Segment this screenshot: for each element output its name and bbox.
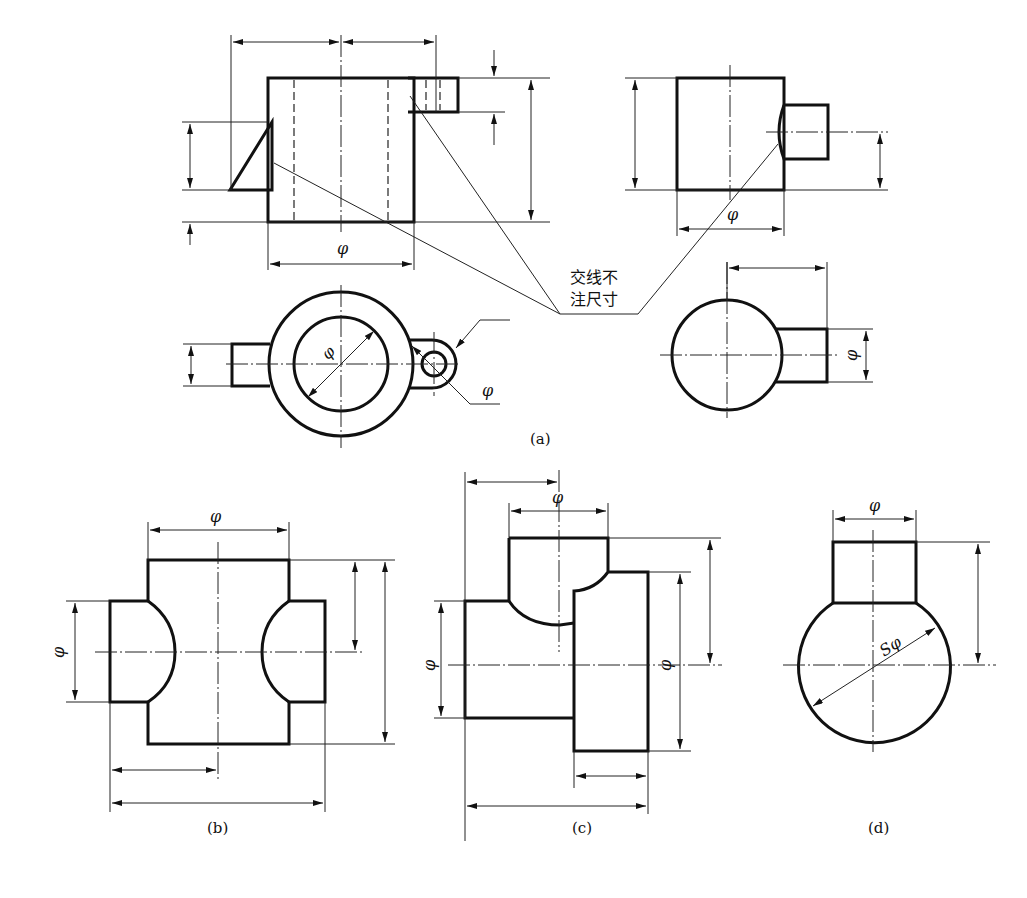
view-b: φ φ bbox=[49, 507, 395, 812]
diameter-label-bore: φ bbox=[317, 341, 339, 363]
diameter-label-hole: φ bbox=[482, 381, 494, 400]
diameter-label-side: φ bbox=[727, 205, 739, 224]
view-d: φ Sφ bbox=[783, 496, 996, 752]
diameter-label-c-left: φ bbox=[420, 659, 439, 671]
caption-a: (a) bbox=[530, 430, 551, 448]
note-leaders bbox=[274, 96, 778, 314]
diameter-label: φ bbox=[337, 239, 349, 258]
engineering-drawing: φ 交线不 注尺寸 φ φ bbox=[0, 0, 1027, 898]
caption-c: (c) bbox=[572, 819, 592, 837]
diameter-label-branch: φ bbox=[842, 349, 861, 361]
view-a-lower-right: φ bbox=[660, 262, 873, 418]
view-a-side: φ bbox=[625, 65, 888, 236]
diameter-label-b-branch: φ bbox=[49, 646, 68, 658]
view-c: φ φ φ bbox=[420, 470, 722, 841]
caption-d: (d) bbox=[868, 819, 889, 837]
view-a-front: φ bbox=[182, 35, 550, 270]
diameter-label-d-neck: φ bbox=[869, 496, 881, 515]
note-line-1: 交线不 bbox=[570, 268, 618, 287]
sphere-diameter-label: Sφ bbox=[876, 632, 906, 660]
note-line-2: 注尺寸 bbox=[570, 290, 618, 309]
diameter-label-b-main: φ bbox=[210, 507, 222, 526]
diameter-label-c-top: φ bbox=[552, 488, 564, 507]
view-a-top: φ φ bbox=[183, 285, 510, 448]
caption-b: (b) bbox=[207, 819, 228, 837]
diameter-label-c-right: φ bbox=[656, 659, 675, 671]
